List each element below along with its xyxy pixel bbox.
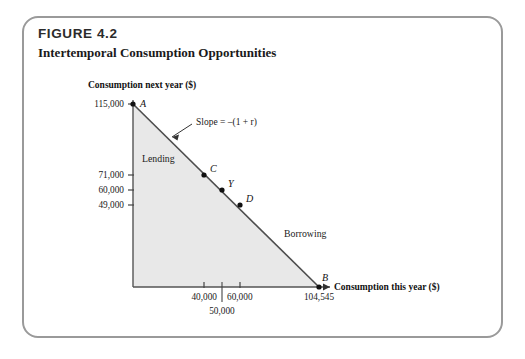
chart-plot-area: 115,000 71,000 60,000 49,000 40,000 60,0… [0,0,525,359]
y-tick-label-71000: 71,000 [98,170,124,180]
data-point-d [237,202,242,207]
slope-leader-arrowhead [172,135,179,141]
slope-annotation: Slope = –(1 + r) [196,117,257,128]
data-point-a [130,101,135,106]
slope-leader-line [172,124,192,137]
data-point-b [316,284,321,289]
point-label-y: Y [228,178,235,189]
y-tick-label-115000: 115,000 [94,99,124,109]
chart-svg: 115,000 71,000 60,000 49,000 40,000 60,0… [0,0,525,359]
x-tick-label-60000: 60,000 [227,292,253,302]
point-label-c: C [210,163,217,174]
borrowing-region-label: Borrowing [284,228,327,239]
x-tick-label-104545: 104,545 [304,292,335,302]
point-label-b: B [322,272,328,283]
point-label-d: D [245,193,254,204]
lending-region-label: Lending [142,153,175,164]
x-tick-label-50000: 50,000 [209,306,235,316]
data-point-y [219,187,224,192]
x-tick-label-40000: 40,000 [191,292,217,302]
point-label-a: A [139,98,147,109]
y-tick-label-49000: 49,000 [98,200,124,210]
y-axis-title: Consumption next year ($) [88,80,196,91]
x-axis-title: Consumption this year ($) [334,282,440,293]
data-point-c [201,172,206,177]
x-axis-arrowhead [323,284,330,291]
y-tick-label-60000: 60,000 [98,185,124,195]
